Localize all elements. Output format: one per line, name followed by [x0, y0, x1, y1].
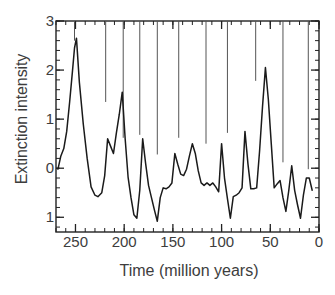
- extinction-intensity-line: [58, 38, 312, 221]
- plot-area: [0, 0, 335, 295]
- axis-ticks: [56, 21, 319, 232]
- extinction-intensity-chart: Extinction intensity Time (million years…: [0, 0, 335, 295]
- axis-frame: [56, 21, 319, 232]
